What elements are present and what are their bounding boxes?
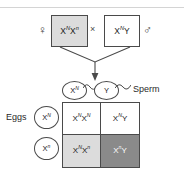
- punnett-cell-1: XNXN: [63, 103, 101, 135]
- cell-2-allele-2: Y: [122, 114, 127, 123]
- male-parent-box: XNY: [104, 15, 140, 47]
- punnett-square-diagram: ♀ XNXn × XNY ♂ XN Y Sperm Eggs XN Xn XNX…: [0, 0, 184, 175]
- cell-3-sup-2: n: [87, 144, 90, 150]
- punnett-cell-4: XnY: [101, 135, 139, 167]
- punnett-cell-3-genotype: XNXn: [73, 147, 90, 155]
- egg-2-sup: n: [48, 142, 51, 148]
- egg-1-genotype: XN: [42, 114, 51, 122]
- eggs-label: Eggs: [6, 113, 27, 122]
- sperm-tail-icon-2: [115, 82, 131, 92]
- cell-1-sup-2: N: [87, 112, 91, 118]
- female-genotype: XNXn: [60, 27, 79, 36]
- male-allele-2: Y: [124, 26, 130, 36]
- cell-4-allele-2: Y: [121, 146, 126, 155]
- punnett-cell-3: XNXn: [63, 135, 101, 167]
- punnett-cell-2: XNY: [101, 103, 139, 135]
- female-sup-2: n: [76, 25, 79, 31]
- top-divider: [0, 7, 184, 8]
- venus-icon: ♀: [38, 24, 47, 36]
- egg-gamete-2: Xn: [34, 137, 59, 160]
- sperm-2-genotype: Y: [104, 87, 109, 95]
- female-parent-box: XNXn: [51, 15, 88, 47]
- egg-1-sup: N: [47, 111, 51, 117]
- sperm-2-allele: Y: [104, 86, 109, 95]
- inheritance-arrow-icon: [58, 46, 132, 82]
- sperm-label: Sperm: [133, 85, 160, 94]
- punnett-cell-1-genotype: XNXN: [72, 115, 90, 123]
- sperm-1-sup: N: [75, 84, 79, 90]
- punnett-grid: XNXN XNY XNXn XnY: [62, 102, 140, 168]
- punnett-cell-4-genotype: XnY: [113, 147, 127, 155]
- punnett-cell-2-genotype: XNY: [113, 115, 127, 123]
- sperm-1-genotype: XN: [70, 87, 79, 95]
- mars-icon: ♂: [143, 24, 152, 36]
- male-genotype: XNY: [114, 27, 129, 36]
- cross-multiply-icon: ×: [90, 25, 95, 34]
- egg-gamete-1: XN: [34, 106, 59, 129]
- egg-2-genotype: Xn: [43, 145, 51, 153]
